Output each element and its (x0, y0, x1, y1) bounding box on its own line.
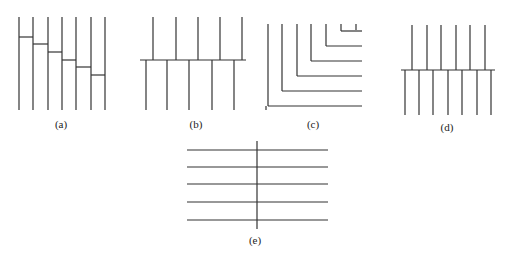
panel-a-label: (a) (55, 118, 68, 131)
panel-e-label: (e) (249, 234, 262, 247)
panel-d-label: (d) (441, 121, 454, 134)
panel-b-label: (b) (190, 118, 203, 131)
figure-canvas: (a) (b) (c) (d) (e) (0, 0, 509, 254)
panel-d (401, 25, 495, 115)
panel-c (266, 24, 362, 110)
panel-e (187, 141, 328, 229)
panel-c-label: (c) (307, 118, 320, 131)
panel-b (140, 17, 246, 110)
panel-a (19, 17, 105, 110)
